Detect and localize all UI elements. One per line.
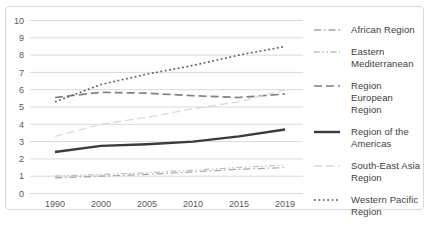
legend-entry-eastern-mediterranean-region: EasternMediterranean xyxy=(313,46,425,70)
y-tick-label: 4 xyxy=(19,120,24,130)
y-tick-label: 3 xyxy=(19,137,24,147)
x-tick-label: 1990 xyxy=(45,199,65,209)
legend-line-swatch-icon xyxy=(313,160,341,172)
legend-label: South-East AsiaRegion xyxy=(351,160,420,184)
legend: African RegionEasternMediterraneanRegion… xyxy=(313,24,425,218)
y-tick-label: 0 xyxy=(19,189,24,199)
y-tick-label: 9 xyxy=(19,33,24,43)
legend-entry-region-of-the-americas: Region of theAmericas xyxy=(313,126,425,150)
legend-line-swatch-icon xyxy=(313,46,341,58)
x-tick-label: 2010 xyxy=(183,199,203,209)
legend-label: Western PacificRegion xyxy=(351,194,418,218)
y-tick-label: 6 xyxy=(19,85,24,95)
legend-line-swatch-icon xyxy=(313,80,341,92)
legend-entry-african-region: African Region xyxy=(313,24,425,36)
x-tick-label: 2005 xyxy=(137,199,157,209)
legend-label: EasternMediterranean xyxy=(351,46,414,70)
legend-line-swatch-icon xyxy=(313,126,341,138)
x-tick-label: 2015 xyxy=(229,199,249,209)
x-tick-label: 2019 xyxy=(275,199,295,209)
legend-line-swatch-icon xyxy=(313,24,341,36)
x-tick-label: 2000 xyxy=(91,199,111,209)
y-tick-label: 10 xyxy=(14,16,24,26)
legend-entry-south-east-asia-region: South-East AsiaRegion xyxy=(313,160,425,184)
y-tick-label: 7 xyxy=(19,68,24,78)
line-chart: 012345678910199020002005201020152019 Afr… xyxy=(0,0,435,231)
y-tick-label: 5 xyxy=(19,102,24,112)
legend-label: Region of theAmericas xyxy=(351,126,409,150)
series-line-region-of-the-americas xyxy=(55,129,285,151)
legend-entry-european-region: RegionEuropean Region xyxy=(313,80,425,116)
legend-line-swatch-icon xyxy=(313,194,341,206)
legend-label: RegionEuropean Region xyxy=(351,80,425,116)
y-tick-label: 2 xyxy=(19,154,24,164)
legend-label: African Region xyxy=(351,24,415,36)
series-line-european-region xyxy=(55,92,285,97)
y-tick-label: 8 xyxy=(19,50,24,60)
y-tick-label: 1 xyxy=(19,171,24,181)
legend-entry-western-pacific-region: Western PacificRegion xyxy=(313,194,425,218)
series-line-eastern-mediterranean-region xyxy=(55,165,285,176)
